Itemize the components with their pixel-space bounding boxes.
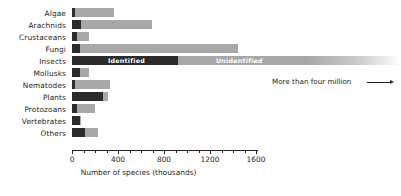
species-bar-chart: Algae Arachnids Crustaceans Fungi Insect…	[0, 0, 401, 196]
bar-segment-identified	[72, 92, 103, 101]
bar-row	[72, 32, 89, 41]
category-label-algae: Algae	[0, 9, 66, 18]
bar-row	[72, 8, 114, 17]
annotation-arrow-line	[367, 82, 391, 83]
x-axis-tick-major	[210, 150, 211, 154]
category-label-fungi: Fungi	[0, 45, 66, 54]
category-axis-labels: Algae Arachnids Crustaceans Fungi Insect…	[0, 0, 66, 150]
bar-segment-unidentified	[103, 92, 108, 101]
bar-label-identified: Identified	[108, 56, 145, 65]
x-axis-tick-minor	[199, 150, 200, 153]
x-axis-tick-label: 1600	[236, 155, 276, 164]
bar-segment-unidentified	[80, 116, 82, 125]
x-axis-tick-major	[164, 150, 165, 154]
bar-row	[72, 104, 95, 113]
x-axis-line	[72, 150, 258, 151]
bar-segment-unidentified	[80, 68, 89, 77]
x-axis-tick-label: 400	[98, 155, 138, 164]
x-axis-tick-minor	[245, 150, 246, 153]
x-axis-tick-minor	[107, 150, 108, 153]
annotation-arrow-head-icon	[390, 80, 394, 84]
x-axis-tick-minor	[187, 150, 188, 153]
bar-segment-identified	[72, 68, 80, 77]
bar-row	[72, 116, 81, 125]
bar-row	[72, 68, 89, 77]
x-axis-tick-minor	[95, 150, 96, 153]
category-label-insects: Insects	[0, 57, 66, 66]
bar-row	[72, 20, 153, 29]
x-axis-tick-minor	[153, 150, 154, 153]
category-label-others: Others	[0, 129, 66, 138]
bar-label-unidentified: Unidentified	[216, 56, 263, 65]
bar-row	[72, 128, 99, 137]
bar-segment-identified	[72, 128, 85, 137]
x-axis-tick-major	[72, 150, 73, 154]
bar-row: Identified Unidentified	[72, 56, 401, 65]
plot-area: Identified Unidentified	[72, 0, 401, 150]
category-label-mollusks: Mollusks	[0, 69, 66, 78]
annotation-more-than-four-million: More than four million	[272, 77, 351, 86]
category-label-plants: Plants	[0, 93, 66, 102]
bar-segment-unidentified	[178, 56, 401, 65]
category-label-crustaceans: Crustaceans	[0, 33, 66, 42]
bar-segment-unidentified	[77, 32, 89, 41]
x-axis-tick-minor	[84, 150, 85, 153]
bar-row	[72, 44, 238, 53]
x-axis-tick-minor	[130, 150, 131, 153]
category-label-vertebrates: Vertebrates	[0, 117, 66, 126]
bar-segment-identified	[72, 116, 80, 125]
x-axis-tick-minor	[233, 150, 234, 153]
bar-segment-unidentified	[80, 44, 238, 53]
bar-segment-unidentified	[81, 20, 153, 29]
category-label-nematodes: Nematodes	[0, 81, 66, 90]
x-axis-title: Number of species (thousands)	[0, 168, 339, 177]
x-axis-tick-label: 800	[144, 155, 184, 164]
x-axis-tick-major	[118, 150, 119, 154]
bar-row	[72, 80, 111, 89]
bar-segment-unidentified	[85, 128, 98, 137]
x-axis-tick-minor	[141, 150, 142, 153]
category-label-arachnids: Arachnids	[0, 21, 66, 30]
x-axis-tick-label: 1200	[190, 155, 230, 164]
category-label-protozoans: Protozoans	[0, 105, 66, 114]
bar-row	[72, 92, 108, 101]
bar-segment-unidentified	[75, 8, 114, 17]
x-axis-tick-minor	[222, 150, 223, 153]
bar-segment-identified	[72, 44, 80, 53]
bar-segment-identified	[72, 20, 81, 29]
x-axis-tick-label: 0	[52, 155, 92, 164]
x-axis-tick-minor	[176, 150, 177, 153]
x-axis-tick-major	[256, 150, 257, 154]
bar-segment-unidentified	[77, 104, 95, 113]
bar-segment-unidentified	[75, 80, 111, 89]
